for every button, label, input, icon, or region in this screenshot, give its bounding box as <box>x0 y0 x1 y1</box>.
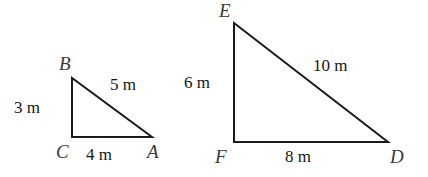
vertex-label-c: C <box>56 142 69 161</box>
vertex-label-b: B <box>59 54 71 73</box>
geometry-figure: B C A 3 m 5 m 4 m E F D 6 m 10 m 8 m <box>0 0 428 177</box>
triangle-def-outline <box>234 23 388 142</box>
side-length-ca: 4 m <box>86 146 112 163</box>
vertex-label-a: A <box>147 142 159 161</box>
side-length-bc: 3 m <box>14 99 40 116</box>
vertex-label-e: E <box>219 1 231 20</box>
vertex-label-d: D <box>390 147 404 166</box>
side-length-ab: 5 m <box>110 76 136 93</box>
vertex-label-f: F <box>215 147 227 166</box>
side-length-ed: 10 m <box>313 57 347 74</box>
side-length-fd: 8 m <box>285 148 311 165</box>
side-length-ef: 6 m <box>184 74 210 91</box>
